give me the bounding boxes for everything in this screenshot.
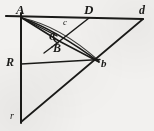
vertex-label-R: R bbox=[6, 56, 14, 68]
vertex-label-b: b bbox=[101, 58, 107, 69]
vertex-label-d: d bbox=[139, 4, 145, 16]
segment-D-B-tail bbox=[44, 47, 52, 53]
vertex-label-D: D bbox=[84, 3, 93, 16]
vertex-label-A: A bbox=[16, 3, 25, 16]
geometry-figure: A D d c C B b R r bbox=[0, 0, 154, 131]
segment-r-d bbox=[21, 19, 143, 122]
vertex-label-B: B bbox=[53, 42, 61, 54]
vertex-label-c: c bbox=[63, 18, 67, 27]
segment-R-to-b bbox=[21, 60, 100, 64]
geometry-canvas bbox=[0, 0, 154, 131]
vertex-label-r: r bbox=[10, 111, 14, 121]
